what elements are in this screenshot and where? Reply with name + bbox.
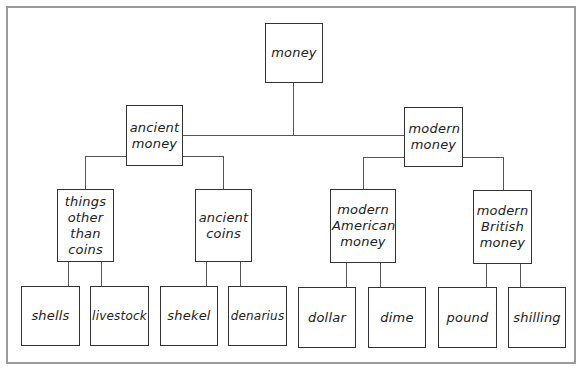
node-livestock: livestock bbox=[90, 286, 149, 346]
node-label: things other than coins bbox=[61, 194, 111, 258]
node-label: modern money bbox=[407, 121, 461, 153]
connector-to-shilling bbox=[520, 264, 521, 287]
connector-to-denarius bbox=[240, 262, 241, 286]
connector-ancient-split-right bbox=[183, 156, 224, 157]
node-label: denarius bbox=[229, 308, 287, 324]
connector-to-livestock bbox=[101, 262, 102, 286]
node-dollar: dollar bbox=[298, 287, 356, 348]
connector-to-dollar bbox=[346, 263, 347, 287]
node-modern-american-money: modern American money bbox=[330, 189, 396, 263]
node-modern-british-money: modern British money bbox=[473, 190, 532, 264]
node-label: shells bbox=[29, 308, 71, 324]
connector-to-pound bbox=[486, 264, 487, 287]
node-denarius: denarius bbox=[228, 286, 287, 346]
node-pound: pound bbox=[438, 287, 497, 348]
node-label: shekel bbox=[165, 308, 212, 324]
connector-to-shells bbox=[68, 262, 69, 286]
node-label: shilling bbox=[511, 310, 563, 326]
node-label: money bbox=[269, 45, 319, 61]
connector-to-ancient-coins bbox=[223, 156, 224, 189]
node-label: dollar bbox=[306, 310, 348, 326]
node-label: pound bbox=[445, 310, 491, 326]
node-label: livestock bbox=[90, 308, 149, 324]
node-things-other-than-coins: things other than coins bbox=[57, 189, 114, 262]
connector-to-american bbox=[363, 157, 364, 189]
connector-to-dime bbox=[380, 263, 381, 287]
node-label: modern American money bbox=[330, 202, 396, 250]
connector-to-shekel bbox=[206, 262, 207, 286]
node-ancient-coins: ancient coins bbox=[195, 189, 252, 262]
node-shells: shells bbox=[21, 286, 80, 346]
node-money: money bbox=[265, 23, 323, 83]
connector-modern-split-right bbox=[463, 157, 504, 158]
node-label: ancient coins bbox=[197, 210, 251, 242]
node-shilling: shilling bbox=[508, 287, 566, 348]
node-ancient-money: ancient money bbox=[126, 105, 183, 166]
node-label: modern British money bbox=[475, 203, 531, 251]
connector-to-british bbox=[503, 157, 504, 190]
node-dime: dime bbox=[368, 287, 426, 348]
node-label: dime bbox=[378, 310, 415, 326]
connector-money-down bbox=[293, 83, 294, 135]
connector-modern-split bbox=[363, 157, 404, 158]
connector-ancient-split bbox=[85, 156, 126, 157]
node-shekel: shekel bbox=[160, 286, 218, 346]
connector-to-things bbox=[85, 156, 86, 189]
node-label: ancient money bbox=[128, 120, 182, 152]
connector-level1 bbox=[183, 135, 404, 136]
node-modern-money: modern money bbox=[404, 107, 463, 167]
